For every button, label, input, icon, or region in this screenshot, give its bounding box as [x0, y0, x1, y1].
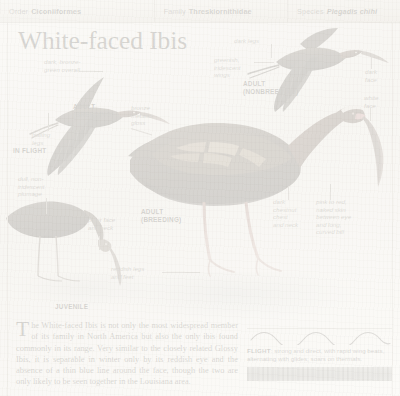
- label-juvenile: JUVENILE: [55, 303, 88, 311]
- label-adult-breeding-main: ADULT (BREEDING): [141, 208, 182, 225]
- taxonomy-header: Order Ciconiiformes Family Threskiornith…: [0, 0, 400, 23]
- taxonomy-species-cell: Species Plegadis chihi: [287, 0, 400, 22]
- leader-dull-plumage: [46, 198, 47, 214]
- leader-greenish-wings: [254, 62, 274, 63]
- annotation-dark-face: dark face: [365, 68, 377, 83]
- order-rank-label: Order: [9, 7, 28, 16]
- label-adult-nonbreeding: ADULT (NONBREEDING): [243, 80, 298, 97]
- annotation-dark-bronze-green: dark, bronze- green overall: [44, 58, 80, 73]
- annotation-white-face: white face: [364, 94, 378, 109]
- habitat-photo-strip: [247, 367, 392, 381]
- field-guide-page: Order Ciconiiformes Family Threskiornith…: [0, 0, 400, 396]
- species-description-paragraph: The White-faced Ibis is not only the mos…: [16, 320, 238, 388]
- taxonomy-family-cell: Family Threskiornithidae: [154, 0, 287, 22]
- annotation-greenish-iridescent-wings: greenish, iridescent wings: [214, 56, 240, 79]
- taxonomy-order-cell: Order Ciconiiformes: [0, 0, 154, 22]
- annotation-bronze-metallic-gloss: bronze metallic gloss: [131, 104, 152, 127]
- species-name: Plegadis chihi: [327, 7, 377, 16]
- leader-trailing-legs: [48, 113, 49, 131]
- family-name: Threskiornithidae: [189, 7, 252, 16]
- flight-info-box: FLIGHT: strong and direct, with rapid wi…: [247, 328, 392, 381]
- species-description-column: The White-faced Ibis is not only the mos…: [16, 320, 238, 388]
- annotation-reddish-legs-and-feet: reddish legs and feet: [111, 265, 144, 280]
- annotation-paler-face-and-neck: paler face and neck: [88, 216, 115, 231]
- annotation-dark-chestnut-chest: dark chestnut chest and neck: [273, 198, 298, 228]
- flight-caption: FLIGHT: strong and direct, with rapid wi…: [247, 347, 392, 363]
- leader-dark-legs: [271, 44, 272, 58]
- leader-reddish-legs: [162, 272, 200, 273]
- species-rank-label: Species: [297, 7, 324, 16]
- leader-white-face: [370, 108, 371, 121]
- flight-label: FLIGHT: [247, 347, 271, 354]
- annotation-trailing-legs: trailing legs: [32, 131, 50, 146]
- leader-dark-bronze: [79, 71, 103, 72]
- label-in-flight: IN FLIGHT: [13, 147, 47, 155]
- drop-cap: T: [16, 320, 31, 339]
- right-margin-rule: [392, 22, 393, 396]
- annotation-dark-legs: dark legs: [234, 37, 259, 45]
- flight-box-divider: [247, 328, 392, 329]
- annotation-pink-to-red-skin: pink to red, naked skin between eye and …: [316, 198, 351, 236]
- label-adult-breeding-flight: ADULT (BREEDING): [73, 103, 114, 120]
- order-name: Ciconiiformes: [31, 7, 81, 16]
- juvenile-ibis-illustration: [6, 202, 121, 286]
- family-rank-label: Family: [164, 7, 186, 16]
- flight-pattern-wave-icon: [247, 331, 392, 345]
- leader-paler-face: [99, 236, 100, 250]
- description-body: he White-faced Ibis is not only the most…: [16, 321, 238, 386]
- left-margin-rule: [7, 22, 8, 396]
- annotation-dull-plumage: dull, non- iridescent plumage: [18, 175, 44, 198]
- page-title: White-faced Ibis: [18, 26, 187, 56]
- adult-breeding-ibis-illustration: [128, 105, 383, 276]
